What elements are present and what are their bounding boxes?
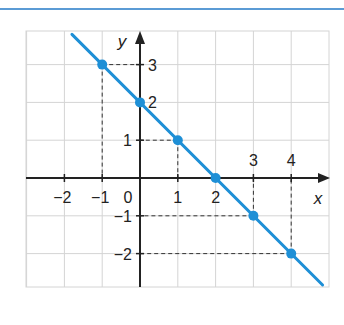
y-tick-label: 1 (123, 132, 132, 149)
chart: −2−101234321−1−2yx (0, 0, 344, 325)
x-tick-label: −2 (53, 189, 71, 206)
x-tick-label: 3 (249, 152, 258, 169)
data-point (135, 97, 145, 107)
x-tick-label: −1 (91, 189, 109, 206)
x-axis-arrow-icon (318, 173, 330, 183)
y-axis-label: y (117, 32, 128, 51)
origin-label: 0 (124, 189, 133, 206)
y-tick-label: 3 (148, 57, 157, 74)
tick-labels: −2−101234321−1−2yx (53, 32, 322, 263)
y-axis-arrow-icon (135, 31, 145, 44)
y-tick-label: 2 (148, 94, 157, 111)
x-tick-label: 2 (211, 189, 220, 206)
data-point (173, 135, 183, 145)
x-axis-label: x (313, 189, 323, 208)
data-point (97, 60, 107, 70)
y-tick-label: −1 (114, 208, 132, 225)
series-line (72, 34, 323, 285)
data-point (286, 249, 296, 259)
data-series (72, 34, 323, 285)
grid (26, 31, 329, 287)
y-tick-label: −2 (114, 246, 132, 263)
x-tick-label: 4 (287, 152, 296, 169)
data-point (211, 173, 221, 183)
x-tick-label: 1 (173, 189, 182, 206)
data-point (248, 211, 258, 221)
